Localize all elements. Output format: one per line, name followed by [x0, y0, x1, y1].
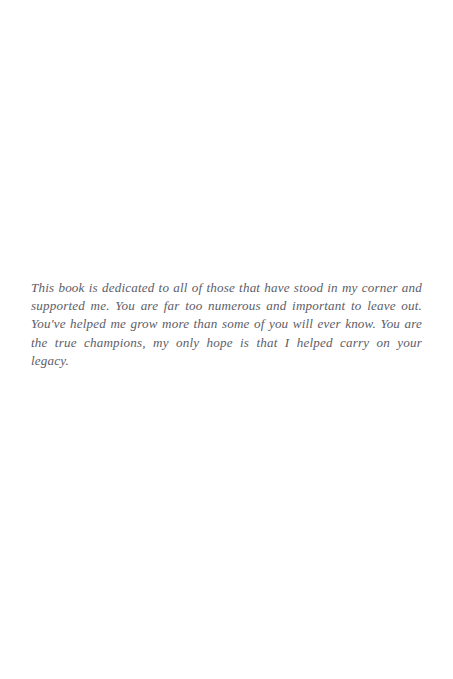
dedication-page: This book is dedicated to all of those t… [0, 0, 453, 679]
dedication-block: This book is dedicated to all of those t… [31, 279, 422, 388]
dedication-paragraph: This book is dedicated to all of those t… [31, 279, 422, 388]
